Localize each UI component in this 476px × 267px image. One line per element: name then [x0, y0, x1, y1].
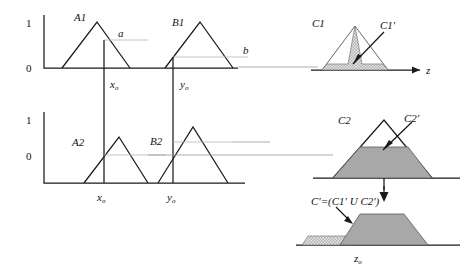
label-a1: A1 [73, 11, 86, 23]
label-y0-row2: yo [166, 191, 176, 205]
label-z-axis-row1: z [425, 64, 431, 76]
label-x0-row1: xo [109, 78, 119, 92]
label-x0-row2: xo [96, 191, 106, 205]
axis-tick-row1-top: 1 [26, 17, 32, 29]
axis-tick-row2-top: 1 [26, 114, 32, 126]
axis-tick-row2-bottom: 0 [26, 150, 32, 162]
label-z0-result: zo [353, 252, 362, 266]
label-a2: A2 [71, 136, 85, 148]
label-layer: 1 0 1 0 A1 a xo B1 b yo C1 C1' z A2 xo B… [0, 0, 476, 267]
label-alpha-cut-b: b [243, 44, 249, 56]
axis-tick-row1-bottom: 0 [26, 62, 32, 74]
label-b2: B2 [150, 135, 163, 147]
label-c2: C2 [338, 114, 351, 126]
fuzzy-inference-figure: 1 0 1 0 A1 a xo B1 b yo C1 C1' z A2 xo B… [0, 0, 476, 267]
label-c1-prime: C1' [380, 19, 396, 31]
label-c2-prime: C2' [404, 112, 420, 124]
label-y0-row1: yo [179, 78, 189, 92]
label-alpha-cut-a: a [118, 27, 124, 39]
label-c1: C1 [312, 17, 325, 29]
label-b1: B1 [172, 16, 184, 28]
label-result-formula: C'=(C1' U C2') [311, 195, 380, 208]
